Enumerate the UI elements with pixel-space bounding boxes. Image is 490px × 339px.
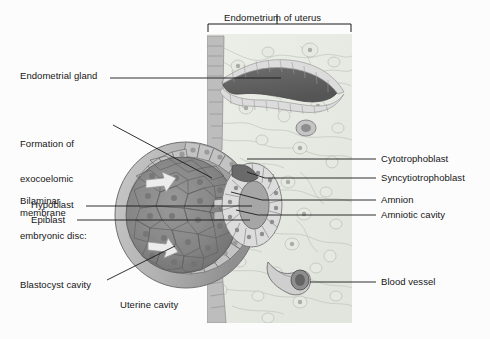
uterine-epithelium xyxy=(207,36,226,323)
amniotic-cavity-lumen xyxy=(239,181,269,229)
label-syncytiotrophoblast: Syncytiotrophoblast xyxy=(381,172,465,184)
syncytiotrophoblast-patch xyxy=(232,165,258,182)
blastocyst-cavity-region xyxy=(126,157,238,273)
endometrium-panel xyxy=(207,34,352,323)
blood-vessel-structure xyxy=(267,262,310,295)
label-blastocyst-cavity: Blastocyst cavity xyxy=(20,279,91,291)
blastocyst xyxy=(115,142,282,288)
gland-epithelium xyxy=(220,60,344,113)
label-amniotic-cavity: Amniotic cavity xyxy=(381,209,445,221)
label-endometrial-gland: Endometrial gland xyxy=(20,70,97,82)
label-epiblast: Epiblast xyxy=(31,214,65,226)
cytotrophoblast-cells xyxy=(127,142,257,274)
label-hypoblast: Hypoblast xyxy=(31,199,74,211)
leader-lines xyxy=(77,78,376,282)
label-blood-vessel: Blood vessel xyxy=(381,276,435,288)
label-cytotrophoblast: Cytotrophoblast xyxy=(381,153,448,165)
implantation-diagram: Endometrium of uterus Endometrial gland … xyxy=(0,0,490,339)
amnion-membrane xyxy=(222,163,282,247)
label-uterine-cavity: Uterine cavity xyxy=(120,299,178,311)
exocoelomic-arrows xyxy=(146,172,178,258)
inner-cell-mosaic xyxy=(134,156,236,272)
bracket-label-endometrium-of-uterus: Endometrium of uterus xyxy=(224,12,321,24)
label-amnion: Amnion xyxy=(381,194,414,206)
amnion-nuclei xyxy=(228,171,278,239)
hypoblast-layer xyxy=(214,199,248,212)
epiblast-layer xyxy=(214,211,248,224)
stromal-fibers xyxy=(212,44,352,314)
embryonic-disc xyxy=(214,199,248,224)
trophoblast-nuclei xyxy=(129,147,253,270)
stromal-cells xyxy=(213,43,344,323)
label-line: embryonic disc: xyxy=(20,230,87,242)
endometrial-gland-structure xyxy=(220,60,344,114)
amnion-cell-borders xyxy=(223,163,282,245)
inner-cell-nuclei xyxy=(143,173,225,267)
blood-vessel-upper xyxy=(296,120,316,136)
amniotic-cavity-structure xyxy=(222,163,282,247)
stromal-nuclei xyxy=(218,48,320,304)
label-line: Formation of xyxy=(20,138,74,150)
